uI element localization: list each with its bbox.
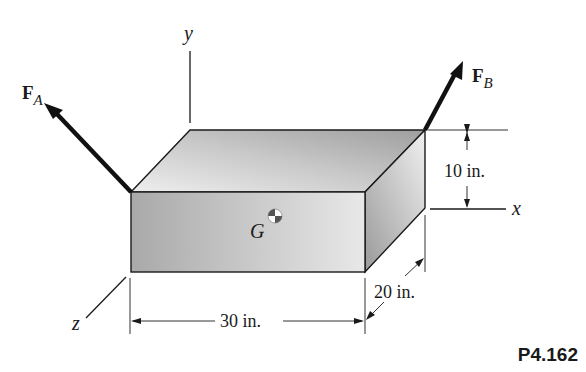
x-axis: x — [430, 197, 521, 219]
height-dimension: 10 in. — [428, 130, 508, 208]
force-a-label: FA — [22, 82, 44, 108]
box-diagram: y G FA FB 10 in. x — [0, 0, 586, 372]
rectangular-block — [131, 130, 425, 272]
problem-number: P4.162 — [518, 344, 578, 366]
cog-label: G — [250, 220, 265, 242]
length-dimension: 30 in. — [130, 278, 365, 334]
z-axis: z — [71, 277, 126, 334]
y-axis: y — [182, 22, 193, 123]
y-axis-label: y — [182, 22, 193, 45]
z-axis-label: z — [71, 312, 80, 334]
front-face — [131, 192, 365, 272]
force-b: FB — [425, 61, 493, 130]
force-b-label: FB — [472, 65, 493, 91]
force-a: FA — [22, 82, 131, 192]
depth-label: 20 in. — [374, 282, 415, 302]
length-label: 30 in. — [220, 311, 261, 331]
height-label: 10 in. — [444, 161, 485, 181]
cog-symbol-icon — [268, 209, 282, 223]
x-axis-label: x — [511, 197, 521, 219]
